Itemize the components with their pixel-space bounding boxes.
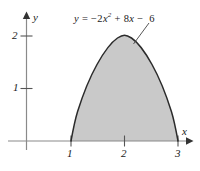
shaded-area (71, 35, 178, 141)
y-tick-label-1: 1 (13, 82, 19, 93)
equation-term2-sign: + (115, 13, 121, 24)
parabola-plot (0, 0, 200, 171)
equation-term3-const: 6 (149, 13, 155, 24)
y-axis-arrow-icon (23, 12, 30, 20)
graph-figure: y = −2x2 + 8x − 6 2 1 1 2 3 x y (0, 0, 200, 171)
equation-term2-var: x (129, 13, 134, 24)
x-tick-label-2: 2 (121, 148, 127, 159)
x-tick-label-3: 3 (175, 148, 181, 159)
y-axis-label: y (33, 12, 38, 23)
equation-term3-sign: − (137, 13, 143, 24)
x-tick-label-1: 1 (67, 148, 73, 159)
equation-equals: = (82, 13, 88, 24)
equation-term1-exponent: 2 (108, 11, 112, 19)
x-axis-arrow-icon (186, 137, 194, 145)
equation-lhs: y (74, 13, 79, 24)
equation-annotation: y = −2x2 + 8x − 6 (74, 11, 155, 24)
y-tick-label-2: 2 (12, 30, 18, 41)
label-leader-line (134, 23, 150, 44)
x-axis-label: x (182, 126, 187, 137)
